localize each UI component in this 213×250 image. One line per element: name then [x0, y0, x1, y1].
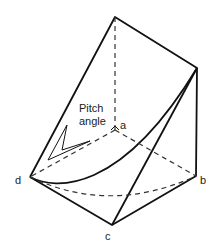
wedge-diagram: [0, 0, 213, 250]
base-arc: [30, 176, 196, 196]
edge-left: [30, 17, 197, 225]
point-a-label: a: [120, 120, 126, 131]
point-c-label: c: [105, 231, 111, 242]
point-d-label: d: [15, 175, 21, 186]
helix-curve: [30, 68, 197, 183]
pitch-label: Pitch: [79, 103, 103, 114]
angle-label: angle: [79, 116, 106, 127]
edge-c-top: [112, 68, 197, 225]
point-b-label: b: [200, 175, 206, 186]
